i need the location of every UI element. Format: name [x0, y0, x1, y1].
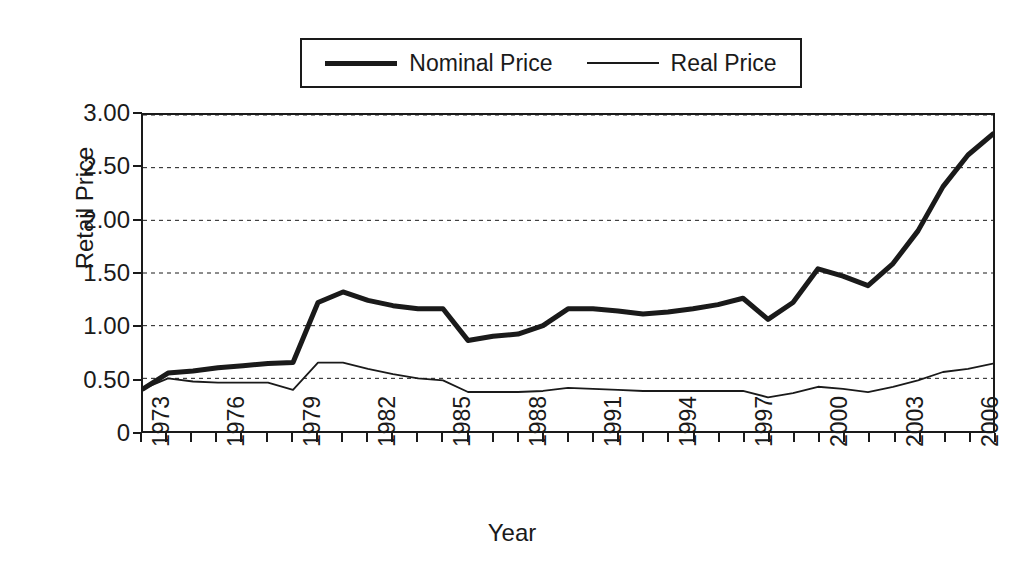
x-tick-label: 1979: [301, 396, 324, 447]
x-tick-label: 2006: [979, 396, 1002, 447]
x-axis-title: Year: [0, 521, 1024, 545]
x-tick-mark: [492, 433, 494, 442]
x-tick-mark: [944, 433, 946, 442]
x-tick-label: 2003: [904, 396, 927, 447]
x-tick-mark: [642, 433, 644, 442]
x-tick-mark: [567, 433, 569, 442]
x-tick-mark: [441, 433, 443, 442]
x-tick-mark: [266, 433, 268, 442]
x-tick-mark: [291, 433, 293, 442]
x-tick-label: 1991: [602, 396, 625, 447]
x-tick-mark: [190, 433, 192, 442]
chart-figure: Nominal Price Real Price Retail Price 00…: [0, 0, 1024, 582]
x-tick-label: 1997: [753, 396, 776, 447]
x-tick-mark: [215, 433, 217, 442]
x-tick-label: 1973: [150, 396, 173, 447]
x-tick-label: 1988: [527, 396, 550, 447]
x-tick-mark: [868, 433, 870, 442]
x-tick-label: 1976: [225, 396, 248, 447]
x-tick-mark: [718, 433, 720, 442]
y-tick-label: 0.50: [42, 368, 130, 392]
x-tick-mark: [818, 433, 820, 442]
x-tick-label: 1982: [376, 396, 399, 447]
y-tick-label: 1.50: [42, 261, 130, 285]
x-tick-mark: [140, 433, 142, 442]
y-tick-label: 0: [42, 421, 130, 445]
x-tick-mark: [894, 433, 896, 442]
x-tick-label: 1985: [451, 396, 474, 447]
y-tick-label: 2.00: [42, 208, 130, 232]
y-tick-label: 2.50: [42, 154, 130, 178]
x-tick-label: 1994: [677, 396, 700, 447]
x-tick-mark: [416, 433, 418, 442]
x-tick-mark: [366, 433, 368, 442]
x-tick-mark: [517, 433, 519, 442]
plot-area: [141, 113, 995, 433]
x-tick-mark: [793, 433, 795, 442]
x-tick-mark: [743, 433, 745, 442]
x-tick-mark: [969, 433, 971, 442]
series-line-nominal-price: [143, 134, 993, 389]
x-tick-mark: [341, 433, 343, 442]
series-line-real-price: [143, 363, 993, 398]
x-tick-mark: [667, 433, 669, 442]
plot-canvas: [143, 115, 993, 431]
y-tick-label: 1.00: [42, 314, 130, 338]
x-tick-label: 2000: [828, 396, 851, 447]
x-tick-mark: [592, 433, 594, 442]
y-tick-label: 3.00: [42, 101, 130, 125]
